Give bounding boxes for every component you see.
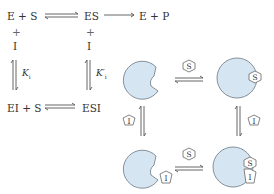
- reaction-arrow: [104, 13, 134, 17]
- equilibrium-arrow-bottom: [45, 103, 75, 110]
- inhibitor-label-ei: I: [165, 174, 168, 183]
- inhibitor-label-right: I: [253, 117, 256, 126]
- enzyme-ei: [123, 150, 158, 188]
- substrate-label-bottom: S: [186, 150, 191, 159]
- diagram-arrows-and-cartoons: S S S S I I I I: [0, 0, 274, 194]
- cartoon-arrow-bottom: [175, 165, 203, 172]
- equilibrium-arrow-top: [45, 12, 78, 19]
- substrate-label-top: S: [186, 62, 191, 71]
- equilibrium-arrow-left-vertical: [11, 60, 18, 90]
- cartoon-arrow-top: [175, 76, 203, 83]
- cartoon-arrow-left-vertical: [139, 106, 146, 136]
- substrate-label-es: S: [252, 73, 257, 82]
- substrate-label-esi: S: [247, 159, 252, 168]
- inhibitor-label-esi: I: [249, 173, 252, 182]
- inhibitor-label-left: I: [128, 117, 131, 126]
- enzyme-e: [123, 61, 158, 99]
- equilibrium-arrow-mid-vertical: [85, 60, 92, 90]
- cartoon-arrow-right-vertical: [235, 106, 242, 136]
